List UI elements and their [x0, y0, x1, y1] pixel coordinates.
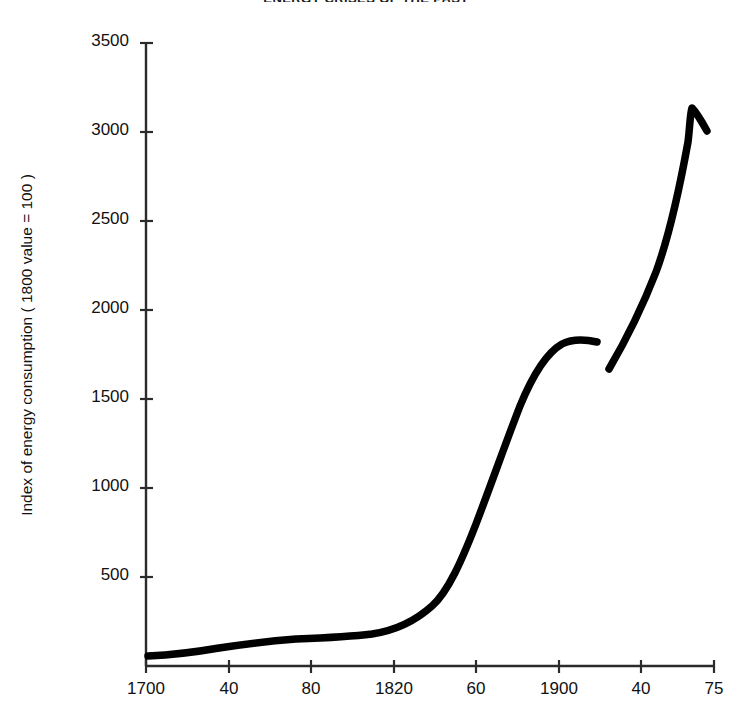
y-tick-label-500: 500: [55, 565, 129, 585]
y-tick-label-1500: 1500: [55, 387, 129, 407]
x-tick-label-1900: 1900: [524, 679, 594, 699]
x-tick-label-1780: 80: [276, 679, 346, 699]
chart-figure: ENERGY CRISES OF THE PAST Index of energ…: [0, 0, 732, 723]
energy-consumption-curve-segment-1: [148, 340, 597, 656]
x-tick-label-1860: 60: [441, 679, 511, 699]
x-tick-label-1700: 1700: [111, 679, 181, 699]
x-tick-label-1975: 75: [679, 679, 732, 699]
y-tick-label-3500: 3500: [55, 31, 129, 51]
x-tick-label-1820: 1820: [359, 679, 429, 699]
energy-consumption-curve-segment-2: [609, 108, 707, 369]
y-tick-label-2000: 2000: [55, 298, 129, 318]
y-tick-label-3000: 3000: [55, 120, 129, 140]
plot-area: [0, 0, 732, 723]
chart-svg: [0, 0, 732, 723]
x-tick-label-1940: 40: [606, 679, 676, 699]
x-tick-label-1740: 40: [194, 679, 264, 699]
y-tick-label-1000: 1000: [55, 476, 129, 496]
y-tick-label-2500: 2500: [55, 209, 129, 229]
